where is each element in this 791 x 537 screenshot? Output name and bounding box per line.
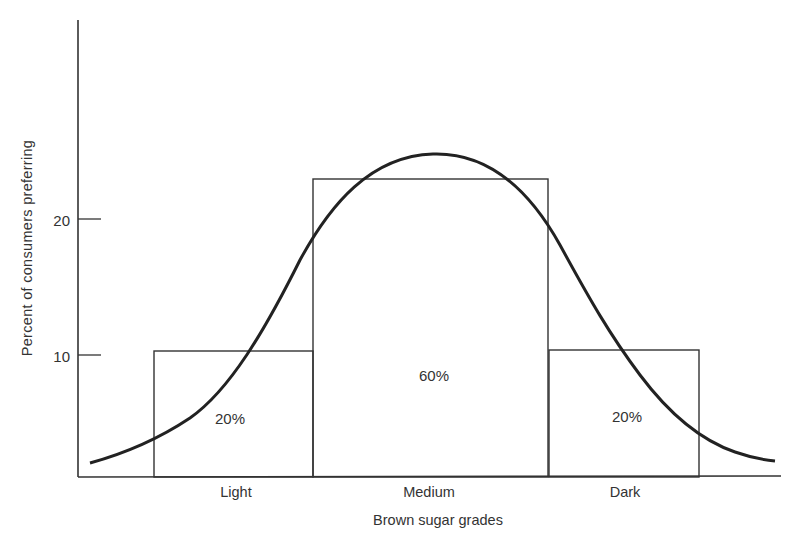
category-dark: Dark (610, 484, 641, 500)
normal-curve (90, 154, 775, 463)
bar-label-dark: 20% (612, 408, 642, 425)
bar-label-light: 20% (215, 410, 245, 427)
x-axis-label: Brown sugar grades (373, 512, 503, 528)
y-tick-label-10: 10 (40, 348, 70, 365)
category-light: Light (220, 484, 251, 500)
bar-label-medium: 60% (419, 367, 449, 384)
bar-medium (313, 179, 548, 477)
chart-canvas (0, 0, 791, 537)
category-medium: Medium (403, 484, 455, 500)
y-axis-label: Percent of consumers preferring (19, 140, 35, 356)
y-tick-label-20: 20 (40, 212, 70, 229)
